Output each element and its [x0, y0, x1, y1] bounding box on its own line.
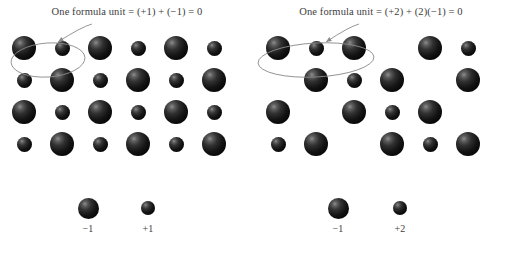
anion-sphere	[50, 132, 74, 156]
cation-sphere	[347, 73, 362, 88]
anion-sphere	[164, 36, 188, 60]
legend-entry-anion: −1	[318, 196, 358, 234]
legend-sphere-wrap	[380, 196, 420, 220]
legend-entry-anion: −1	[68, 196, 108, 234]
cation-sphere	[93, 137, 108, 152]
anion-sphere	[12, 100, 36, 124]
cation-sphere	[131, 41, 146, 56]
anion-sphere	[12, 36, 36, 60]
legend-sphere-wrap	[318, 196, 358, 220]
anion-sphere	[202, 68, 226, 92]
cation-sphere	[385, 105, 400, 120]
cation-sphere	[17, 137, 32, 152]
anion-sphere	[380, 68, 404, 92]
cation-sphere	[207, 105, 222, 120]
legend-cation-sphere	[141, 201, 155, 215]
anion-sphere	[456, 68, 480, 92]
anion-sphere	[202, 132, 226, 156]
anion-sphere	[126, 132, 150, 156]
anion-sphere	[418, 100, 442, 124]
legend-sphere-wrap	[68, 196, 108, 220]
cation-sphere	[17, 73, 32, 88]
anion-sphere	[126, 68, 150, 92]
ion-legend-left: −1+1	[0, 196, 254, 256]
cation-sphere	[131, 105, 146, 120]
anion-sphere	[266, 36, 290, 60]
legend-anion-sphere	[328, 198, 349, 219]
cation-sphere	[423, 137, 438, 152]
legend-sphere-wrap	[128, 196, 168, 220]
cation-sphere	[55, 105, 70, 120]
legend-charge-label: −1	[68, 223, 108, 234]
anion-sphere	[304, 68, 328, 92]
anion-sphere	[304, 132, 328, 156]
legend-charge-label: +2	[380, 223, 420, 234]
cation-sphere	[55, 41, 70, 56]
cation-sphere	[169, 73, 184, 88]
cation-sphere	[271, 137, 286, 152]
anion-sphere	[342, 100, 366, 124]
legend-anion-sphere	[78, 198, 99, 219]
anion-sphere	[88, 100, 112, 124]
ion-legend-right: −1+2	[254, 196, 508, 256]
legend-charge-label: +1	[128, 223, 168, 234]
cation-sphere	[461, 41, 476, 56]
legend-charge-label: −1	[318, 223, 358, 234]
cation-sphere	[309, 41, 324, 56]
legend-entry-cation: +2	[380, 196, 420, 234]
lattice-panel-right: One formula unit = (+2) + (2)(−1) = 0 −1…	[254, 0, 508, 259]
anion-sphere	[164, 100, 188, 124]
anion-sphere	[418, 36, 442, 60]
anion-sphere	[380, 132, 404, 156]
cation-sphere	[207, 41, 222, 56]
anion-sphere	[266, 100, 290, 124]
cation-sphere	[169, 137, 184, 152]
anion-sphere	[88, 36, 112, 60]
cation-sphere	[93, 73, 108, 88]
legend-entry-cation: +1	[128, 196, 168, 234]
anion-sphere	[342, 36, 366, 60]
anion-sphere	[456, 132, 480, 156]
anion-sphere	[50, 68, 74, 92]
legend-cation-sphere	[393, 201, 407, 215]
lattice-panel-left: One formula unit = (+1) + (−1) = 0 −1+1	[0, 0, 254, 259]
